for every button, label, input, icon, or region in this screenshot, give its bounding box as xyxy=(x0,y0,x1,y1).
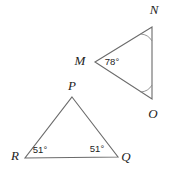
vertex-label-m: M xyxy=(74,53,87,68)
angle-label-q: 51° xyxy=(90,143,105,154)
angle-arc-o xyxy=(141,85,152,92)
triangle-pqr: P Q R 51° 51° xyxy=(10,78,131,164)
triangle-mno-outline xyxy=(95,27,152,99)
vertex-label-r: R xyxy=(10,148,19,163)
geometry-canvas: M N O 78° P Q R 51° 51° xyxy=(0,0,169,176)
geometry-figure: M N O 78° P Q R 51° 51° xyxy=(0,0,169,176)
vertex-label-n: N xyxy=(149,2,160,17)
vertex-label-p: P xyxy=(67,78,76,93)
angle-label-m: 78° xyxy=(105,56,120,67)
triangle-mno: M N O 78° xyxy=(74,2,160,121)
angle-label-r: 51° xyxy=(33,144,48,155)
angle-arc-n xyxy=(141,34,152,41)
vertex-label-q: Q xyxy=(121,149,131,164)
vertex-label-o: O xyxy=(148,106,158,121)
